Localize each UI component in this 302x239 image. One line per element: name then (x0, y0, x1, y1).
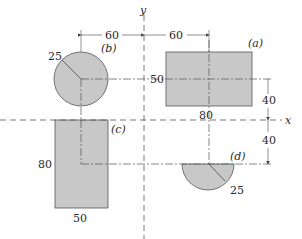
dim-upper-offset: 40 (262, 94, 276, 107)
dim-lower-offset: 40 (262, 134, 276, 147)
width-c: 50 (73, 212, 87, 225)
height-c: 80 (38, 158, 52, 171)
composite-area-diagram: y x 60 60 40 40 (a) 80 50 (b) 25 (c) 80 … (0, 0, 302, 239)
x-axis-label: x (285, 114, 292, 127)
shape-d-semicircle (182, 164, 234, 190)
radius-b: 25 (48, 50, 62, 63)
dim-right-offset: 60 (169, 29, 183, 42)
label-c: (c) (111, 123, 126, 136)
y-axis-label: y (139, 4, 147, 17)
width-a: 80 (199, 109, 213, 122)
label-b: (b) (101, 42, 117, 55)
label-d: (d) (230, 150, 246, 163)
radius-d: 25 (230, 184, 244, 197)
label-a: (a) (248, 37, 263, 50)
height-a: 50 (150, 73, 164, 86)
dim-left-offset: 60 (105, 29, 119, 42)
